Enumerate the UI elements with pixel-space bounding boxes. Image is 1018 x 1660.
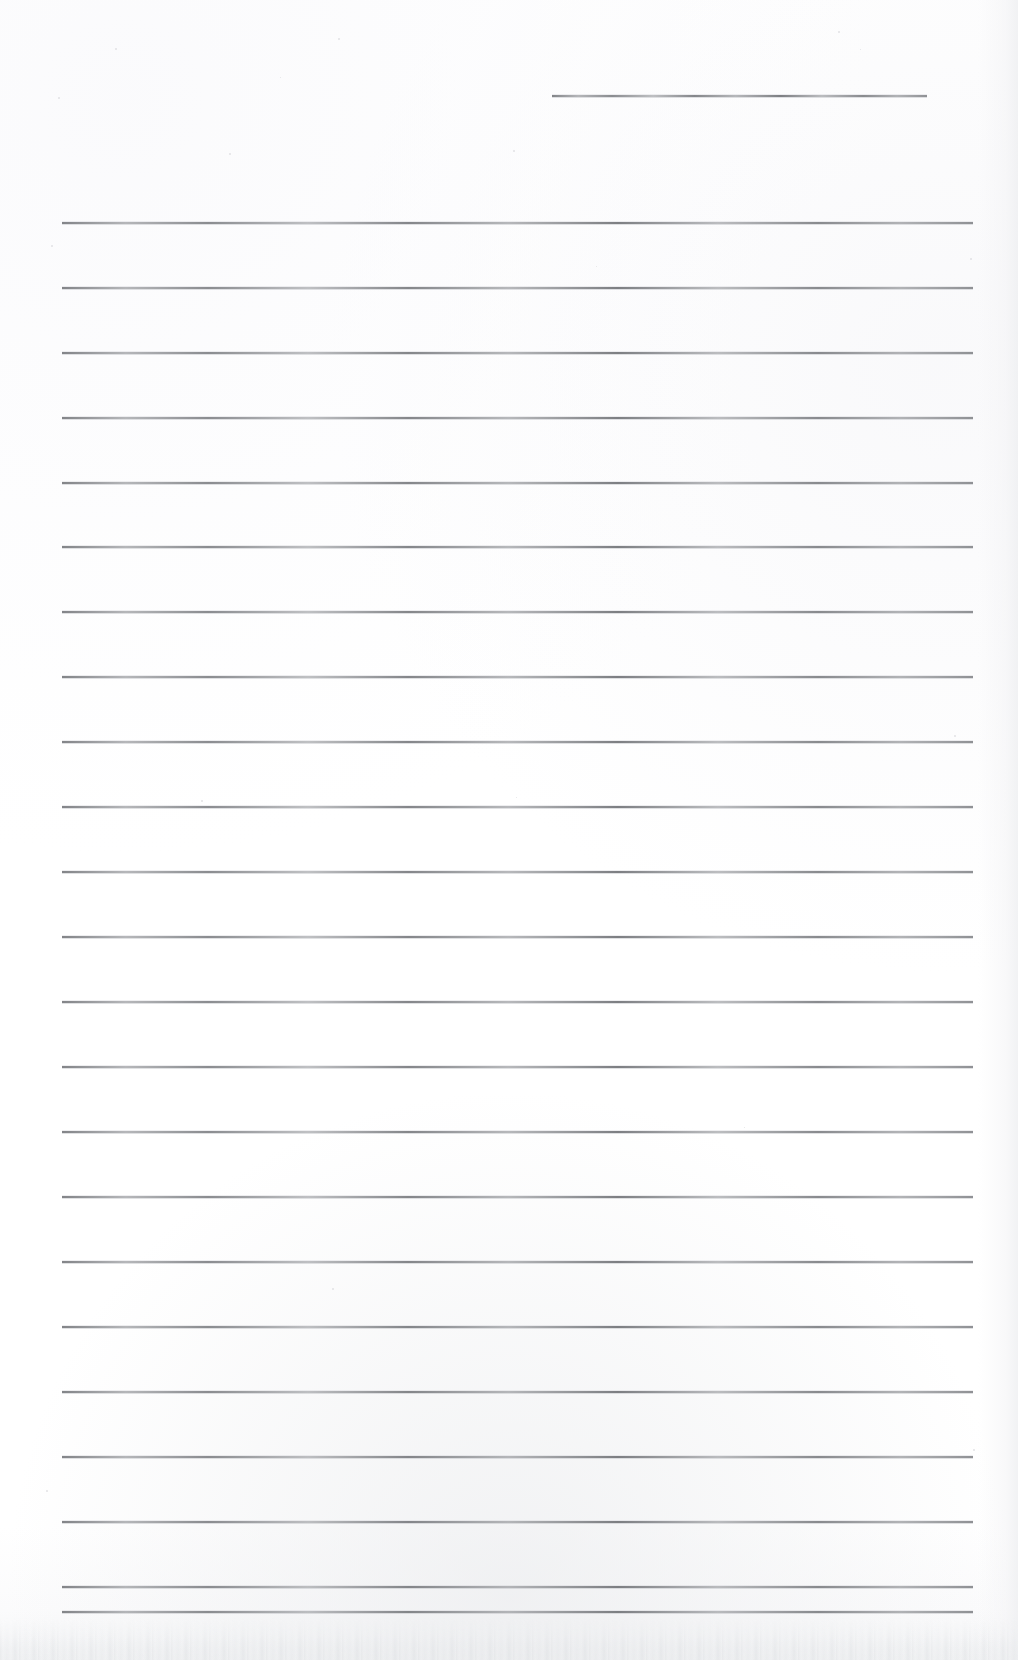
body-rule: [62, 417, 973, 419]
scanned-page: [0, 0, 1018, 1660]
body-rule: [62, 936, 973, 938]
rule-ink: [62, 806, 973, 808]
scan-speck: [954, 735, 956, 737]
body-rule: [62, 1066, 973, 1068]
body-rule: [62, 287, 973, 289]
rule-ink: [62, 417, 973, 419]
rule-ink: [62, 546, 973, 548]
body-rule: [62, 676, 973, 678]
scan-speck: [46, 1490, 48, 1492]
body-rule: [62, 222, 973, 224]
rule-ink: [62, 1001, 973, 1003]
rule-ink: [62, 1261, 973, 1263]
scan-speck: [860, 49, 861, 50]
rule-ink: [62, 482, 973, 484]
body-rule: [62, 1586, 973, 1588]
scan-speck: [58, 97, 60, 99]
body-rule: [62, 741, 973, 743]
body-rule: [62, 1326, 973, 1328]
body-rule: [62, 1131, 973, 1133]
scan-edge-bottom: [0, 1618, 1018, 1660]
rule-ink: [552, 95, 927, 97]
rule-ink: [62, 936, 973, 938]
rule-ink: [62, 1456, 973, 1458]
scan-speck: [838, 31, 840, 33]
body-rule: [62, 611, 973, 613]
body-rule: [62, 1521, 973, 1523]
rule-ink: [62, 1611, 973, 1613]
rule-ink: [62, 1326, 973, 1328]
body-rule: [62, 1391, 973, 1393]
rule-ink: [62, 1521, 973, 1523]
scan-speck: [513, 150, 515, 152]
scan-speck: [201, 800, 203, 802]
body-rule: [62, 1196, 973, 1198]
rule-ink: [62, 1131, 973, 1133]
scan-speck: [115, 48, 117, 50]
rule-ink: [62, 676, 973, 678]
body-rule: [62, 352, 973, 354]
scan-speck: [229, 153, 231, 155]
scan-speck: [338, 38, 340, 40]
scan-speck: [280, 77, 281, 78]
rule-ink: [62, 741, 973, 743]
body-rule: [62, 1261, 973, 1263]
rule-ink: [62, 611, 973, 613]
scan-speck: [973, 1449, 975, 1451]
scan-speck: [516, 797, 517, 798]
rule-ink: [62, 222, 973, 224]
scan-speck: [970, 258, 972, 260]
rule-ink: [62, 287, 973, 289]
paper-texture: [0, 0, 1018, 1660]
body-rule: [62, 871, 973, 873]
body-rule: [62, 1611, 973, 1613]
scan-edge-right: [978, 0, 1018, 1660]
rule-ink: [62, 1196, 973, 1198]
rule-ink: [62, 352, 973, 354]
body-rule: [62, 1456, 973, 1458]
scan-speck: [596, 266, 597, 267]
body-rule: [62, 1001, 973, 1003]
scan-speck: [51, 245, 53, 247]
rule-ink: [62, 871, 973, 873]
scan-speck: [744, 1127, 745, 1128]
rule-ink: [62, 1391, 973, 1393]
body-rule: [62, 482, 973, 484]
header-rule: [552, 95, 927, 97]
rule-ink: [62, 1066, 973, 1068]
scan-speck: [332, 1288, 334, 1290]
rule-ink: [62, 1586, 973, 1588]
body-rule: [62, 806, 973, 808]
body-rule: [62, 546, 973, 548]
